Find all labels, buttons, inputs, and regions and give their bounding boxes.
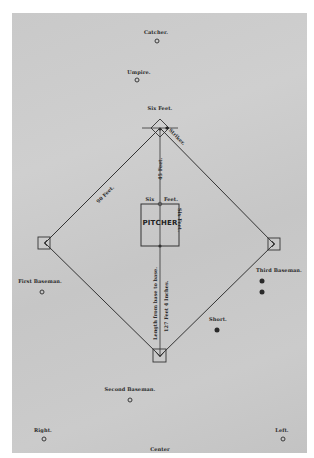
label-center: Center: [150, 446, 170, 452]
first-to-second-line: [45, 243, 160, 356]
third-baseman-dot-2: [260, 290, 265, 295]
right-fielder-marker: [42, 437, 47, 442]
label-pitcher-width-right: Feet.: [164, 196, 178, 202]
label-base-to-base: Length from base to base.: [152, 267, 158, 340]
short-dot: [215, 328, 220, 333]
label-right: Right.: [34, 427, 52, 433]
second-baseman-marker: [128, 398, 133, 403]
label-pitcher-box: PITCHER: [142, 219, 177, 227]
label-pitcher-depth: Six Feet.: [177, 208, 183, 232]
label-left: Left.: [275, 427, 288, 433]
label-second-baseman: Second Baseman.: [105, 386, 156, 392]
field-diagram: [0, 0, 314, 458]
left-fielder-marker: [281, 437, 286, 442]
umpire-marker: [135, 78, 140, 83]
label-umpire: Umpire.: [127, 69, 150, 75]
label-base-to-base-value: 127 Feet 4 Inches.: [163, 281, 169, 332]
label-short: Short.: [209, 316, 227, 322]
label-home-to-pitcher: 45 Feet.: [157, 158, 163, 180]
third-to-second-line: [160, 244, 274, 356]
label-catcher: Catcher.: [144, 29, 168, 35]
first-baseman-marker: [40, 290, 45, 295]
label-home-box-size: Six Feet.: [148, 105, 173, 111]
label-third-baseman: Third Baseman.: [256, 267, 302, 273]
catcher-marker: [155, 39, 160, 44]
label-pitcher-width-left: Six: [146, 196, 155, 202]
label-first-baseman: First Baseman.: [18, 278, 62, 284]
third-baseman-dot-1: [260, 279, 265, 284]
